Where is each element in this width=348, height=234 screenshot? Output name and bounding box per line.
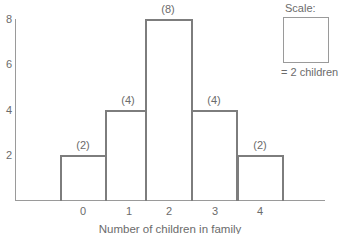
bar-value-label-0: (2) <box>60 139 106 151</box>
scale-key: Scale: = 2 children <box>281 2 347 79</box>
bar-value-label-2: (8) <box>145 3 191 15</box>
bar-value-label-4: (2) <box>237 139 283 151</box>
x-tick-label-4: 4 <box>237 205 283 217</box>
bar-1 <box>105 110 147 201</box>
x-axis-title: Number of children in family <box>15 223 325 234</box>
y-axis-line <box>15 19 16 201</box>
bar-2 <box>145 19 193 201</box>
bar-0 <box>60 155 107 201</box>
bar-value-label-1: (4) <box>105 94 151 106</box>
y-tick-label-8: 8 <box>0 14 12 25</box>
y-tick-label-4: 4 <box>0 105 12 116</box>
x-tick-label-2: 2 <box>146 205 192 217</box>
bar-value-label-3: (4) <box>191 94 237 106</box>
histogram-chart: 8 6 4 2 0 1 2 3 4 (2) (4) (8) (4) (2) Nu… <box>0 0 348 234</box>
y-tick-label-6: 6 <box>0 59 12 70</box>
scale-key-swatch <box>283 17 329 63</box>
scale-key-title: Scale: <box>285 2 347 15</box>
bar-4 <box>237 155 284 201</box>
x-tick-label-0: 0 <box>60 205 106 217</box>
bar-3 <box>191 110 238 201</box>
x-tick-label-3: 3 <box>192 205 238 217</box>
scale-key-caption: = 2 children <box>281 66 347 79</box>
y-tick-label-2: 2 <box>0 150 12 161</box>
